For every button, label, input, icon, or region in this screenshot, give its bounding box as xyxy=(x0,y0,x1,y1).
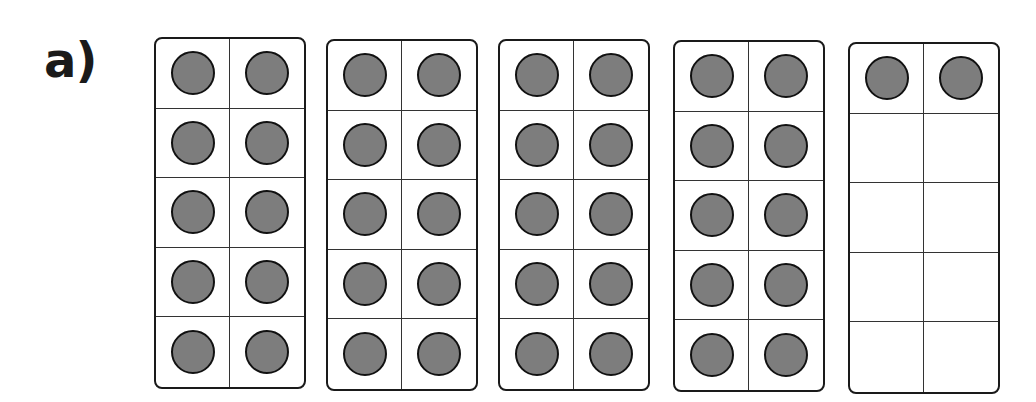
counter-dot-icon xyxy=(171,260,215,304)
counter-dot-icon xyxy=(417,332,461,376)
frame-cell xyxy=(500,319,574,389)
frame-cell xyxy=(328,319,402,389)
counter-dot-icon xyxy=(245,190,289,234)
counter-dot-icon xyxy=(245,121,289,165)
frame-cell xyxy=(328,180,402,250)
counter-dot-icon xyxy=(515,332,559,376)
counter-dot-icon xyxy=(245,260,289,304)
frame-cell xyxy=(749,320,823,390)
counter-dot-icon xyxy=(690,124,734,168)
counter-dot-icon xyxy=(589,53,633,97)
counter-dot-icon xyxy=(690,54,734,98)
frame-cell xyxy=(500,250,574,320)
frame-cell xyxy=(850,44,924,114)
frame-cell xyxy=(924,322,998,392)
ten-frame-4 xyxy=(673,40,825,392)
counter-dot-icon xyxy=(690,263,734,307)
frame-cell xyxy=(402,41,476,111)
counter-dot-icon xyxy=(343,192,387,236)
frame-cell xyxy=(850,253,924,323)
counter-dot-icon xyxy=(764,54,808,98)
counter-dot-icon xyxy=(343,53,387,97)
counter-dot-icon xyxy=(764,263,808,307)
counter-dot-icon xyxy=(245,330,289,374)
frame-cell xyxy=(402,250,476,320)
frame-cell xyxy=(574,180,648,250)
frame-cell xyxy=(675,251,749,321)
frame-cell xyxy=(156,109,230,179)
question-label: a) xyxy=(44,32,96,88)
frame-cell xyxy=(500,41,574,111)
frame-cell xyxy=(574,319,648,389)
frame-cell xyxy=(749,251,823,321)
counter-dot-icon xyxy=(515,192,559,236)
counter-dot-icon xyxy=(171,190,215,234)
frame-cell xyxy=(402,180,476,250)
counter-dot-icon xyxy=(515,123,559,167)
frame-cell xyxy=(675,112,749,182)
counter-dot-icon xyxy=(171,330,215,374)
frame-cell xyxy=(156,248,230,318)
frame-cell xyxy=(402,319,476,389)
ten-frame-3 xyxy=(498,39,650,391)
frame-cell xyxy=(574,41,648,111)
frame-cell xyxy=(230,178,304,248)
frame-cell xyxy=(574,111,648,181)
frame-cell xyxy=(675,320,749,390)
counter-dot-icon xyxy=(417,123,461,167)
ten-frame-5 xyxy=(848,42,1000,394)
frame-cell xyxy=(328,41,402,111)
frame-cell xyxy=(850,114,924,184)
ten-frame-1 xyxy=(154,37,306,389)
counter-dot-icon xyxy=(515,262,559,306)
counter-dot-icon xyxy=(589,192,633,236)
counter-dot-icon xyxy=(343,262,387,306)
frame-cell xyxy=(749,181,823,251)
frame-cell xyxy=(328,250,402,320)
frame-cell xyxy=(230,248,304,318)
counter-dot-icon xyxy=(417,53,461,97)
counter-dot-icon xyxy=(690,333,734,377)
frame-cell xyxy=(924,44,998,114)
frame-cell xyxy=(156,317,230,387)
frame-cell xyxy=(850,322,924,392)
frame-cell xyxy=(924,253,998,323)
frame-cell xyxy=(924,183,998,253)
frame-cell xyxy=(230,317,304,387)
counter-dot-icon xyxy=(939,56,983,100)
counter-dot-icon xyxy=(589,262,633,306)
counter-dot-icon xyxy=(764,333,808,377)
frame-cell xyxy=(156,178,230,248)
counter-dot-icon xyxy=(171,121,215,165)
frame-cell xyxy=(500,111,574,181)
counter-dot-icon xyxy=(690,193,734,237)
frame-cell xyxy=(574,250,648,320)
frame-cell xyxy=(749,42,823,112)
counter-dot-icon xyxy=(343,332,387,376)
counter-dot-icon xyxy=(417,262,461,306)
frame-cell xyxy=(328,111,402,181)
counter-dot-icon xyxy=(589,332,633,376)
counter-dot-icon xyxy=(171,51,215,95)
counter-dot-icon xyxy=(764,193,808,237)
frame-cell xyxy=(156,39,230,109)
counter-dot-icon xyxy=(764,124,808,168)
frame-cell xyxy=(675,181,749,251)
frame-cell xyxy=(230,39,304,109)
counter-dot-icon xyxy=(417,192,461,236)
counter-dot-icon xyxy=(865,56,909,100)
frame-cell xyxy=(749,112,823,182)
frame-cell xyxy=(500,180,574,250)
frame-cell xyxy=(850,183,924,253)
frame-cell xyxy=(924,114,998,184)
ten-frame-2 xyxy=(326,39,478,391)
counter-dot-icon xyxy=(589,123,633,167)
counter-dot-icon xyxy=(343,123,387,167)
counter-dot-icon xyxy=(245,51,289,95)
frame-cell xyxy=(675,42,749,112)
frame-cell xyxy=(230,109,304,179)
frame-cell xyxy=(402,111,476,181)
counter-dot-icon xyxy=(515,53,559,97)
